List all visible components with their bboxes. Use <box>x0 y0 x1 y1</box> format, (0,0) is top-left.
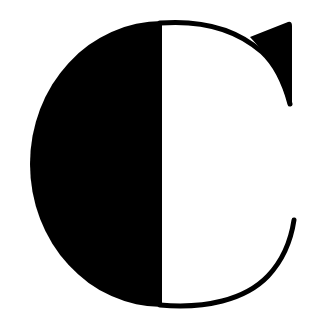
logo-filled-half <box>30 21 162 307</box>
logo-divider <box>158 21 162 307</box>
c-monogram-logo-icon <box>0 0 314 327</box>
logo-container <box>0 0 314 327</box>
logo-bottom-arc <box>160 220 294 306</box>
